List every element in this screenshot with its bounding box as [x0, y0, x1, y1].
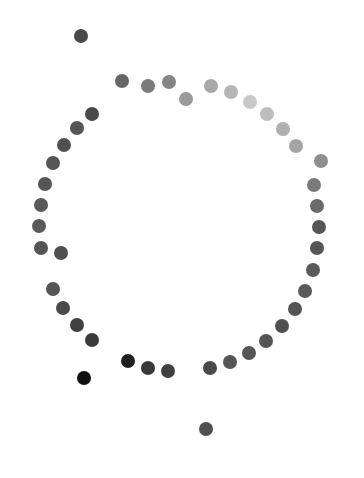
outlier-dot	[77, 371, 91, 385]
ring-dot	[288, 302, 302, 316]
ring-dot	[223, 355, 237, 369]
outlier-dot	[74, 29, 88, 43]
ring-dot	[310, 199, 324, 213]
ring-dot	[70, 318, 84, 332]
ring-dot	[34, 198, 48, 212]
ring-dot	[224, 85, 238, 99]
ring-dot	[259, 334, 273, 348]
ring-dot	[46, 156, 60, 170]
ring-dot	[203, 361, 217, 375]
ring-dot	[162, 75, 176, 89]
ring-dot	[260, 107, 274, 121]
ring-dot	[85, 107, 99, 121]
ring-dot	[38, 177, 52, 191]
ring-dot	[310, 241, 324, 255]
ring-dot	[276, 122, 290, 136]
ring-dot	[314, 154, 328, 168]
ring-dot	[57, 138, 71, 152]
outlier-dot	[199, 422, 213, 436]
ring-dot	[46, 282, 60, 296]
ring-dot	[141, 79, 155, 93]
ring-dot	[289, 139, 303, 153]
ring-dot	[204, 79, 218, 93]
ring-dot	[115, 74, 129, 88]
ring-dot	[141, 361, 155, 375]
ring-dot	[307, 178, 321, 192]
ring-dot	[242, 346, 256, 360]
ring-dot	[32, 219, 46, 233]
ring-dot	[312, 220, 326, 234]
ring-dot	[56, 301, 70, 315]
ring-dot	[179, 92, 193, 106]
ring-dot	[54, 246, 68, 260]
ring-dot	[298, 284, 312, 298]
ring-dot	[121, 354, 135, 368]
ring-dot	[306, 263, 320, 277]
ring-dot	[275, 319, 289, 333]
ring-dot	[161, 364, 175, 378]
dot-ring-canvas	[0, 0, 364, 478]
ring-dot	[70, 121, 84, 135]
ring-dot	[34, 241, 48, 255]
ring-dot	[85, 333, 99, 347]
ring-dot	[243, 95, 257, 109]
